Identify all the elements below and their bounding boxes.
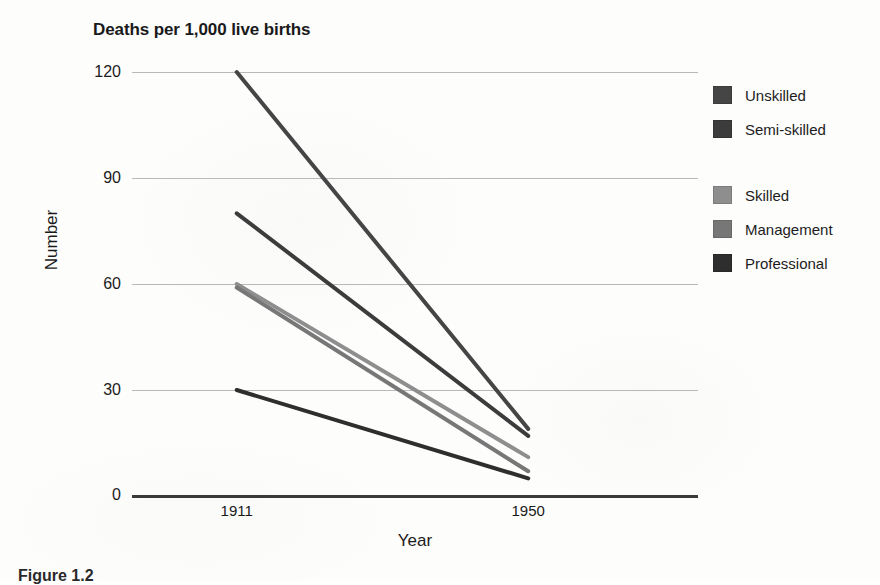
legend-swatch-icon [713,86,732,104]
legend-label: Professional [745,256,828,271]
y-axis-title: Number [42,180,62,300]
series-line [237,288,528,472]
legend-item[interactable]: Semi-skilled [713,112,873,146]
legend-label: Unskilled [745,88,806,103]
legend-swatch-icon [713,220,732,238]
y-axis-tick-label: 60 [103,276,121,292]
series-line [237,72,528,429]
chart-legend: UnskilledSemi-skilledSkilledManagementPr… [713,78,873,280]
y-axis-tick-label: 120 [94,64,121,80]
x-axis-tick-labels: 19111950 [132,503,698,525]
legend-swatch-icon [713,120,732,138]
x-axis-tick-label: 1950 [512,503,545,518]
x-axis-tick-label: 1911 [221,503,253,518]
figure-caption: Figure 1.2 [18,567,94,585]
legend-label: Management [745,222,833,237]
data-lines [132,72,698,496]
legend-item[interactable]: Unskilled [713,78,873,112]
legend-item[interactable]: Professional [713,246,873,280]
plot-area: 0306090120 [132,72,698,496]
y-axis-tick-label: 0 [112,487,121,503]
legend-item[interactable]: Management [713,212,873,246]
legend-label: Semi-skilled [745,122,826,137]
legend-item[interactable]: Skilled [713,178,873,212]
legend-label: Skilled [745,188,789,203]
series-line [237,284,528,457]
legend-swatch-icon [713,254,732,272]
y-axis-tick-label: 90 [103,170,121,186]
x-axis-title: Year [132,531,698,551]
chart-title: Deaths per 1,000 live births [93,20,310,40]
y-axis-tick-label: 30 [103,382,121,398]
legend-swatch-icon [713,186,732,204]
